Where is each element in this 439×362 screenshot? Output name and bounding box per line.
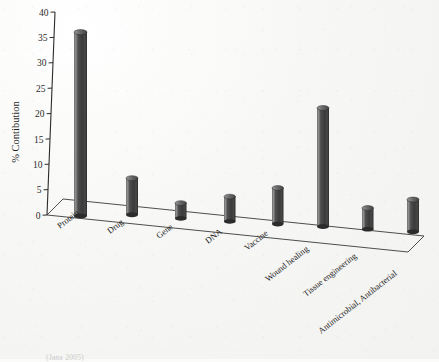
bar-tissue-engineering[interactable] [362, 206, 374, 232]
cat-label-tissue-engineering: Tissue engineering [301, 250, 359, 298]
y-tick-label-15: 15 [34, 135, 44, 145]
bar-protein[interactable] [74, 30, 87, 219]
cat-label-wound-healing: Wound healing [263, 243, 311, 283]
cat-label-gene: Gene [154, 221, 175, 240]
y-tick-label-40: 40 [39, 8, 49, 18]
cat-label-dna: DNA [203, 226, 224, 246]
y-tick-label-25: 25 [36, 84, 46, 94]
y-tick-label-20: 20 [35, 109, 45, 119]
y-tick-label-30: 30 [37, 58, 47, 68]
figure-caption: (Jana 2005) [46, 353, 406, 362]
cat-label-vaccine: Vaccine [242, 228, 270, 253]
y-tick-label-5: 5 [37, 185, 42, 195]
y-axis: 0 5 10 15 20 25 30 35 40 % Contibution [10, 8, 55, 221]
y-tick-label-0: 0 [36, 211, 41, 221]
bar-vaccine[interactable] [272, 186, 284, 227]
x-axis-category-labels: Protein Drug Gene DNA Vaccine Wound heal… [55, 207, 399, 336]
y-axis-title: % Contibution [10, 100, 21, 162]
bar-wound-healing[interactable] [317, 106, 329, 230]
bar-drug[interactable] [126, 176, 138, 218]
bar-gene[interactable] [175, 201, 187, 221]
bar-dna[interactable] [224, 194, 236, 224]
cat-label-drug: Drug [105, 216, 126, 235]
y-tick-label-35: 35 [38, 33, 48, 43]
y-tick-label-10: 10 [33, 160, 43, 170]
bar-antimicrobial-antibacterial[interactable] [407, 197, 419, 234]
